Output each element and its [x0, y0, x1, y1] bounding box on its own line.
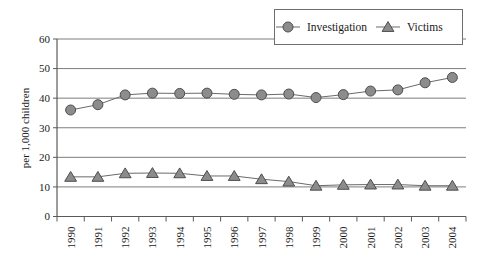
legend-label: Investigation — [307, 21, 367, 34]
y-tick-label: 0 — [45, 210, 51, 222]
x-tick-label: 1999 — [310, 226, 322, 249]
x-tick-label: 1996 — [228, 226, 240, 249]
x-tick-group: 1990199119921993199419951996199719981999… — [57, 217, 466, 249]
data-point-marker-circle — [284, 89, 294, 99]
data-point-marker-circle — [311, 93, 321, 103]
data-point-marker-circle — [229, 89, 239, 99]
x-tick-label: 1993 — [146, 226, 158, 249]
y-axis-title: per 1,000 children — [19, 87, 31, 168]
x-tick-label: 2003 — [419, 226, 431, 249]
x-tick-label: 1992 — [119, 227, 131, 249]
y-tick-label: 20 — [39, 151, 51, 163]
data-point-marker-circle — [393, 85, 403, 95]
data-point-marker-circle — [257, 90, 267, 100]
chart-figure: 0102030405060 19901991199219931994199519… — [0, 0, 478, 265]
x-tick-label: 1997 — [256, 226, 268, 249]
x-tick-label: 1998 — [283, 226, 295, 249]
y-tick-label: 50 — [39, 62, 51, 74]
x-tick-label: 1990 — [65, 226, 77, 249]
x-tick-label: 2000 — [337, 226, 349, 249]
x-tick-label: 1994 — [174, 226, 186, 249]
x-tick-label: 2001 — [365, 227, 377, 249]
x-tick-label: 1991 — [92, 227, 104, 249]
data-point-marker-circle — [66, 105, 76, 115]
y-tick-label: 30 — [39, 122, 51, 134]
line-chart: 0102030405060 19901991199219931994199519… — [0, 0, 478, 265]
legend-label: Victims — [407, 21, 443, 33]
x-tick-label: 1995 — [201, 226, 213, 249]
series-investigation — [66, 72, 458, 115]
data-point-marker-circle — [175, 88, 185, 98]
x-tick-label: 2004 — [446, 226, 458, 249]
data-point-marker-circle — [202, 88, 212, 98]
y-tick-group: 0102030405060 — [39, 33, 57, 223]
data-point-marker-circle — [93, 100, 103, 110]
chart-legend: InvestigationVictims — [275, 10, 463, 45]
x-tick-label: 2002 — [392, 227, 404, 249]
data-point-marker-triangle — [147, 168, 159, 178]
series-layer — [65, 72, 459, 190]
y-tick-label: 40 — [39, 92, 51, 104]
data-point-marker-circle — [447, 72, 457, 82]
data-point-marker-circle — [147, 88, 157, 98]
data-point-marker-circle — [283, 22, 293, 32]
data-point-marker-circle — [366, 86, 376, 96]
data-point-marker-circle — [338, 90, 348, 100]
y-tick-label: 10 — [39, 181, 51, 193]
data-point-marker-circle — [420, 78, 430, 88]
data-point-marker-circle — [120, 90, 130, 100]
y-gridlines — [57, 39, 466, 187]
y-tick-label: 60 — [39, 33, 51, 45]
